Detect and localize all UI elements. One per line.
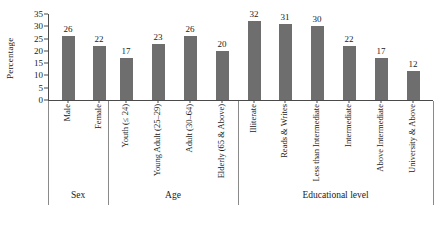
group-divider — [433, 101, 434, 205]
x-axis-category-label: Above Intermediate — [376, 104, 385, 172]
bar-value-label: 31 — [281, 12, 290, 22]
bar: 26 — [62, 36, 75, 100]
group-divider — [108, 101, 109, 205]
bar-value-label: 26 — [64, 24, 73, 34]
y-tick-label: 10 — [21, 70, 48, 80]
x-axis-category-label: Illiterate — [249, 104, 258, 133]
group-label: Educational level — [302, 190, 368, 200]
bar: 23 — [152, 44, 165, 101]
x-tick-mark — [158, 100, 159, 103]
x-tick-mark — [68, 100, 69, 103]
y-tick-label: 30 — [21, 21, 48, 31]
y-tick-label: 25 — [21, 34, 48, 44]
bar-value-label: 17 — [377, 46, 386, 56]
bar: 30 — [311, 26, 324, 100]
x-axis-category-label: Male — [63, 104, 72, 121]
group-label: Sex — [71, 190, 85, 200]
x-tick-mark — [190, 100, 191, 103]
x-axis-category-label: Female — [94, 104, 103, 129]
bar-value-label: 17 — [122, 46, 131, 56]
group-label: Age — [165, 190, 181, 200]
x-tick-mark — [381, 100, 382, 103]
bar: 31 — [279, 24, 292, 100]
x-tick-mark — [126, 100, 127, 103]
x-tick-mark — [285, 100, 286, 103]
group-divider — [238, 101, 239, 205]
bar-value-label: 32 — [250, 9, 259, 19]
bar: 22 — [343, 46, 356, 100]
bar-value-label: 22 — [345, 34, 354, 44]
x-axis-line — [48, 100, 433, 101]
x-axis-category-label: Less than Intermediate — [312, 104, 321, 181]
x-tick-mark — [99, 100, 100, 103]
x-tick-mark — [413, 100, 414, 103]
x-axis-category-label: Young Adult (25–29) — [153, 104, 162, 176]
bar: 20 — [216, 51, 229, 100]
y-tick-label: 5 — [21, 83, 48, 93]
x-tick-mark — [349, 100, 350, 103]
x-axis-category-label: Youth (≤ 24) — [121, 104, 130, 147]
bar: 32 — [248, 21, 261, 100]
bar-value-label: 23 — [154, 32, 163, 42]
group-divider — [48, 101, 49, 205]
bar-value-label: 12 — [409, 59, 418, 69]
x-tick-mark — [222, 100, 223, 103]
bar: 12 — [407, 71, 420, 100]
x-axis-category-label: Intermediate — [344, 104, 353, 147]
bar: 17 — [375, 58, 388, 100]
x-axis-category-label: Adult (30–64) — [185, 104, 194, 152]
bar-chart: Percentage 35302520151050 26221723262032… — [0, 0, 444, 240]
y-axis-title: Percentage — [2, 18, 18, 98]
y-tick-label: 20 — [21, 46, 48, 56]
x-tick-mark — [254, 100, 255, 103]
bar-value-label: 22 — [95, 34, 104, 44]
x-tick-mark — [317, 100, 318, 103]
y-tick-label: 15 — [21, 58, 48, 68]
bar: 17 — [120, 58, 133, 100]
bar-value-label: 26 — [186, 24, 195, 34]
y-tick-label: 35 — [21, 9, 48, 19]
bar: 26 — [184, 36, 197, 100]
y-tick-label: 0 — [21, 95, 48, 105]
plot-area: 35302520151050 262217232620323130221712 — [48, 14, 433, 100]
x-axis-category-label: Reads & Writes — [280, 104, 289, 158]
bar-value-label: 30 — [313, 14, 322, 24]
x-axis-category-label: University & Above — [408, 104, 417, 173]
bar-value-label: 20 — [218, 39, 227, 49]
x-axis-category-label: Elderly (65 & Above) — [217, 104, 226, 178]
bar: 22 — [93, 46, 106, 100]
